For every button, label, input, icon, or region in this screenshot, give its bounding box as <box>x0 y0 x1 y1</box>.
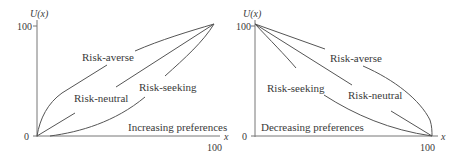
y-axis-label: U(x) <box>30 8 49 20</box>
y-tick-label-100: 100 <box>17 21 32 32</box>
x-axis-label: x <box>440 131 446 142</box>
y-axis-label: U(x) <box>243 8 262 20</box>
caption-decreasing-preferences: Decreasing preferences <box>261 121 364 133</box>
y-tick-label-0: 0 <box>242 131 247 142</box>
chart-increasing-preferences: U(x) 100 0 x 100 Risk-averse Risk-neutra… <box>17 8 229 153</box>
risk-averse-curve <box>255 24 325 49</box>
caption-increasing-preferences: Increasing preferences <box>128 121 227 133</box>
x-tick-label-100: 100 <box>207 142 222 153</box>
chart-decreasing-preferences: U(x) 100 0 x 100 Risk-averse Risk-neutra… <box>236 8 446 153</box>
risk-averse-curve-lower <box>363 66 432 136</box>
utility-charts: U(x) 100 0 x 100 Risk-averse Risk-neutra… <box>0 0 467 159</box>
y-tick-label-100: 100 <box>236 21 251 32</box>
risk-averse-curve-upper <box>135 24 214 51</box>
label-risk-averse: Risk-averse <box>82 51 134 63</box>
label-risk-averse: Risk-averse <box>330 52 382 64</box>
x-tick-label-100: 100 <box>420 142 435 153</box>
label-risk-seeking: Risk-seeking <box>139 81 197 93</box>
y-tick-label-0: 0 <box>24 131 29 142</box>
label-risk-neutral: Risk-neutral <box>74 92 128 104</box>
label-risk-neutral: Risk-neutral <box>348 89 402 101</box>
label-risk-seeking: Risk-seeking <box>267 82 325 94</box>
